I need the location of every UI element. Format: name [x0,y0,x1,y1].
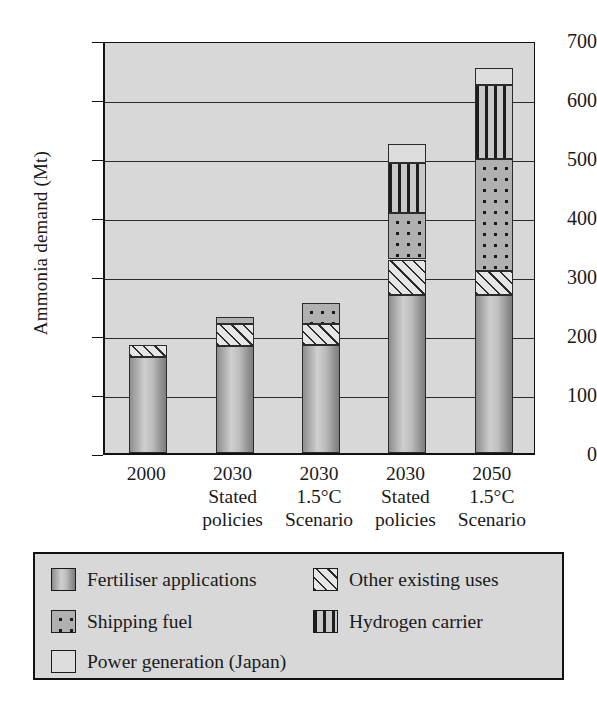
legend-swatch-fert-icon [51,568,76,591]
gridline [105,161,534,162]
bar-3 [302,303,340,453]
x-axis-label-line: Scenario [437,508,547,531]
legend-label: Power generation (Japan) [87,652,286,672]
y-axis-tick-mark [92,219,103,220]
legend-swatch-power-icon [51,650,76,673]
bar-segment-ship [302,303,340,325]
bar-segment-fert [475,295,513,453]
ammonia-demand-chart: Ammonia demand (Mt) 01002003004005006007… [0,0,597,725]
bar-segment-other [475,271,513,295]
legend-item-ship[interactable]: Shipping fuel [51,610,193,633]
y-axis-tick-mark [92,337,103,338]
gridline [105,279,534,280]
y-axis-tick-300: 300 [541,267,597,287]
bar-segment-other [302,324,340,345]
y-axis-tick-mark [92,42,103,43]
bar-segment-ship [216,317,254,324]
bar-segment-ship [388,213,426,259]
plot-area [103,42,535,455]
bar-segment-other [216,324,254,345]
legend-label: Hydrogen carrier [349,612,483,632]
bar-segment-power [388,144,426,163]
y-axis-tick-mark [92,101,103,102]
bar-segment-fert [216,346,254,453]
y-axis-tick-400: 400 [541,208,597,228]
bar-segment-other [129,345,167,357]
y-axis-tick-mark [92,396,103,397]
bar-segment-other [388,260,426,295]
legend-label: Shipping fuel [87,612,193,632]
legend-label: Fertiliser applications [87,570,257,590]
legend-item-power[interactable]: Power generation (Japan) [51,650,286,673]
legend-label: Other existing uses [349,570,498,590]
bar-5 [475,68,513,453]
gridline [105,220,534,221]
y-axis-tick-mark [92,455,103,456]
chart-legend: Fertiliser applicationsOther existing us… [33,552,564,680]
x-axis-label-line: 2050 [437,462,547,485]
bar-4 [388,144,426,453]
legend-item-hydro[interactable]: Hydrogen carrier [313,610,483,633]
legend-item-other[interactable]: Other existing uses [313,568,498,591]
bar-segment-power [475,68,513,86]
y-axis-tick-200: 200 [541,326,597,346]
y-axis-tick-0: 0 [541,444,597,464]
bar-2 [216,317,254,453]
legend-item-fert[interactable]: Fertiliser applications [51,568,257,591]
bar-1 [129,345,167,453]
y-axis-tick-mark [92,278,103,279]
bar-segment-fert [302,345,340,453]
x-axis-label-5: 20501.5°CScenario [437,462,547,531]
gridline [105,102,534,103]
x-axis-label-line: 1.5°C [437,485,547,508]
y-axis-tick-100: 100 [541,385,597,405]
bar-segment-ship [475,159,513,271]
bar-segment-hydro [388,163,426,213]
legend-swatch-other-icon [313,568,338,591]
y-axis-tick-mark [92,160,103,161]
y-axis-title: Ammonia demand (Mt) [30,118,52,368]
bar-segment-hydro [475,85,513,159]
legend-swatch-hydro-icon [313,610,338,633]
bar-segment-fert [388,295,426,453]
y-axis-tick-600: 600 [541,90,597,110]
legend-swatch-ship-icon [51,610,76,633]
bar-segment-fert [129,357,167,453]
y-axis-tick-700: 700 [541,31,597,51]
y-axis-tick-500: 500 [541,149,597,169]
